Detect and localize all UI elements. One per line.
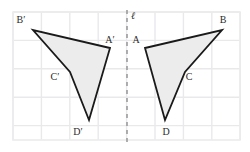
- vertex-label-a: A: [132, 34, 140, 45]
- vertex-label-c: C: [186, 71, 193, 82]
- mirror-line-label: ℓ: [131, 10, 135, 21]
- figure-canvas: ABCDA′B′C′D′ ℓ: [0, 0, 250, 152]
- vertex-label-d: D: [162, 126, 169, 137]
- reflection-figure: ABCDA′B′C′D′ ℓ: [0, 0, 250, 152]
- vertex-label-b: B: [220, 14, 227, 25]
- vertex-label-b-prime: B′: [17, 14, 26, 25]
- vertex-label-d-prime: D′: [73, 126, 82, 137]
- vertex-label-a-prime: A′: [105, 34, 114, 45]
- vertex-label-c-prime: C′: [51, 71, 60, 82]
